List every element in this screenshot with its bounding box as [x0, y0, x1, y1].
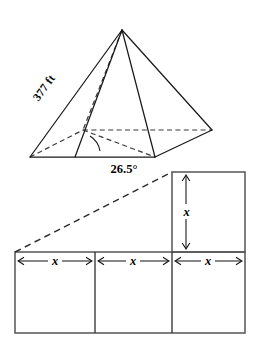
- pyramid-angle-arc: [90, 136, 100, 151]
- pyramid-slant-label-group: 377 ft: [30, 72, 57, 103]
- geometry-figure: 377 ft 26.5° x: [0, 0, 261, 350]
- figure-canvas: 377 ft 26.5° x: [0, 0, 261, 350]
- pyramid-face-fold-edge: [75, 30, 122, 157]
- net-width-label-1: x: [51, 254, 58, 268]
- net-width-label-3: x: [204, 254, 211, 268]
- net-group: x x x x: [15, 172, 245, 333]
- pyramid-hidden-base-edge-left: [30, 130, 83, 157]
- net-width-label-2: x: [129, 254, 136, 268]
- pyramid-slant-label: 377 ft: [30, 72, 57, 103]
- net-height-dimension: x: [180, 175, 193, 249]
- pyramid-group: 377 ft 26.5°: [30, 30, 212, 176]
- net-dashed-diagonal: [15, 172, 172, 252]
- pyramid-angle-label: 26.5°: [111, 162, 138, 176]
- net-width-dimension-2: x: [98, 254, 169, 269]
- pyramid-base-edge-right: [155, 130, 212, 157]
- net-height-label: x: [182, 205, 189, 219]
- net-width-dimension-3: x: [175, 254, 242, 269]
- pyramid-hidden-diagonal: [83, 130, 155, 157]
- net-width-dimension-1: x: [18, 254, 92, 269]
